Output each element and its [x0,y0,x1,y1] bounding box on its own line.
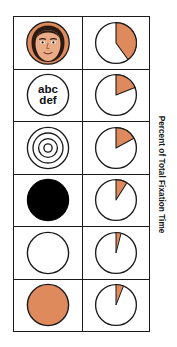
pie-cell-concentric-circles [83,122,149,174]
stimulus-cell-black-disc [14,175,83,227]
pie-chart-white-disc [93,230,139,276]
bullseye-icon [25,125,71,171]
table-row [14,175,149,228]
pie-cell-text [83,70,149,122]
pie-cell-black-disc [83,175,149,227]
stimulus-text-line2: def [39,93,57,106]
stimulus-cell-concentric-circles [14,122,83,174]
pie-chart-orange-disc [93,282,139,328]
table-row [14,17,149,70]
axis-label-text: Percent of Total Fixation Time [158,115,167,233]
pie-cell-face [83,17,149,69]
stimulus-cell-face [14,17,83,69]
face-icon [25,20,71,66]
table-row [14,227,149,280]
white-disc-icon [25,230,71,276]
figure-root: abc def [0,0,177,347]
stimulus-fixation-table: abc def [13,16,150,332]
pie-chart-face [93,20,139,66]
table-row [14,280,149,332]
y-axis-label: Percent of Total Fixation Time [152,16,172,332]
pie-cell-white-disc [83,227,149,279]
text-circle-icon: abc def [25,72,71,118]
stimulus-cell-text: abc def [14,70,83,122]
pie-chart-concentric-circles [93,125,139,171]
stimulus-cell-white-disc [14,227,83,279]
orange-disc-icon [25,282,71,328]
pie-chart-text [93,72,139,118]
table-row: abc def [14,70,149,123]
pie-chart-black-disc [93,177,139,223]
black-disc-icon [25,177,71,223]
pie-cell-orange-disc [83,280,149,332]
table-row [14,122,149,175]
stimulus-cell-orange-disc [14,280,83,332]
